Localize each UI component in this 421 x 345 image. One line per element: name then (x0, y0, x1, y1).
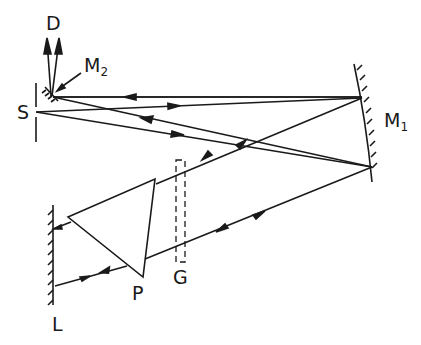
beams-prism-to-l (53, 222, 127, 286)
label-m2: M2 (84, 56, 108, 78)
optical-diagram (0, 0, 421, 345)
m2-pointer-arrow (57, 73, 81, 91)
mirror-l (48, 205, 53, 305)
label-m1: M1 (384, 111, 408, 133)
label-p: P (132, 284, 143, 303)
label-l: L (52, 315, 63, 334)
label-s: S (17, 103, 29, 122)
label-d: D (46, 14, 61, 33)
beam-m1-to-prism-lower (145, 167, 372, 259)
prism-p (68, 179, 155, 277)
label-g: G (173, 268, 188, 287)
beam-m1-to-prism-upper (156, 98, 362, 184)
